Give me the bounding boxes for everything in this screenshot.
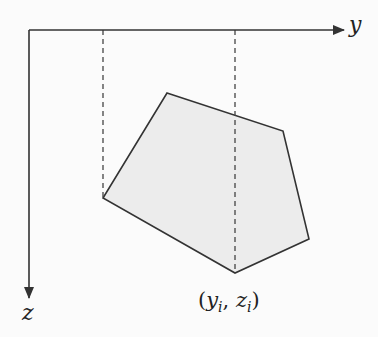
diagram-graphic [0, 0, 378, 337]
z-axis-label: z [22, 302, 34, 324]
polygon-projection-diagram: y z (yi, zi) [0, 0, 378, 337]
pentagon-shape [103, 93, 309, 273]
vertex-label: (yi, zi) [198, 290, 260, 314]
y-axis-label: y [349, 14, 361, 36]
